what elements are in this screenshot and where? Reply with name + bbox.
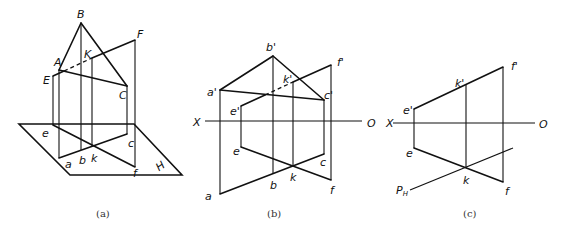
caption-b: (b) bbox=[267, 208, 281, 219]
label-e1: e' bbox=[230, 105, 240, 118]
edge-a1b1 bbox=[220, 56, 273, 90]
trace-ph bbox=[410, 148, 513, 190]
label-a: a bbox=[65, 158, 72, 171]
label-X: X bbox=[385, 117, 394, 130]
label-O: O bbox=[367, 117, 376, 130]
label-B: B bbox=[77, 8, 85, 21]
label-f1: f' bbox=[337, 56, 344, 69]
label-F: F bbox=[137, 28, 144, 41]
label-K: K bbox=[84, 48, 92, 61]
label-O: O bbox=[539, 118, 548, 131]
label-ph: PH bbox=[396, 184, 409, 198]
label-k: k bbox=[91, 152, 98, 165]
label-c: c bbox=[320, 156, 326, 169]
label-k1: k' bbox=[455, 77, 464, 90]
label-f: f bbox=[330, 184, 336, 197]
label-f: f bbox=[505, 185, 511, 198]
label-E: E bbox=[43, 74, 50, 87]
figure-c: e' k' f' X O e k f PH (c) bbox=[385, 60, 548, 219]
label-C: C bbox=[119, 89, 127, 102]
label-e: e bbox=[233, 145, 240, 158]
line-ef-visible bbox=[92, 40, 135, 58]
caption-c: (c) bbox=[463, 208, 477, 219]
label-X: X bbox=[192, 116, 201, 129]
label-e1: e' bbox=[403, 104, 413, 117]
label-b: b bbox=[79, 154, 86, 167]
label-b1: b' bbox=[266, 41, 276, 54]
caption-a: (a) bbox=[96, 208, 110, 219]
label-a1: a' bbox=[207, 86, 217, 99]
label-e: e bbox=[42, 127, 49, 140]
projection-ef bbox=[414, 148, 503, 182]
line-e1f1-start bbox=[241, 95, 265, 106]
line-e1f1-visible bbox=[293, 65, 331, 82]
edge-b1c1 bbox=[273, 56, 324, 100]
label-k1: k' bbox=[283, 73, 292, 86]
label-e: e bbox=[406, 147, 413, 160]
label-c: c bbox=[128, 137, 134, 150]
label-b: b bbox=[270, 179, 277, 192]
figure-b: b' a' c' e' f' k' X O e a b k c f (b) bbox=[192, 41, 376, 219]
projection-ef bbox=[241, 147, 331, 180]
edge-ab bbox=[59, 23, 81, 70]
label-k: k bbox=[290, 171, 297, 184]
label-A: A bbox=[53, 56, 62, 69]
label-f: f bbox=[133, 167, 139, 180]
figure-a: B A C E F K e a b k c f H (a) bbox=[19, 8, 182, 219]
label-c1: c' bbox=[324, 89, 333, 102]
label-H: H bbox=[153, 159, 167, 174]
projection-diagram: B A C E F K e a b k c f H (a) bbox=[0, 0, 561, 236]
label-f1: f' bbox=[511, 60, 518, 73]
label-a: a bbox=[205, 190, 212, 203]
label-k: k bbox=[463, 174, 470, 187]
